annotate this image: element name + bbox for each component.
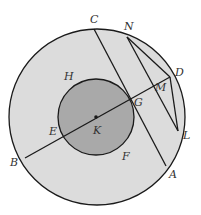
label-E: E <box>49 126 57 137</box>
label-N: N <box>124 21 134 32</box>
geometry-diagram: C N D M H G E K L B F A <box>0 0 201 215</box>
label-C: C <box>90 14 98 25</box>
label-L: L <box>183 130 190 141</box>
label-G: G <box>134 97 143 108</box>
label-A: A <box>169 169 177 180</box>
label-F: F <box>122 151 130 162</box>
center-point-K <box>94 115 98 119</box>
label-M: M <box>155 82 166 93</box>
label-H: H <box>64 71 74 82</box>
label-K: K <box>93 125 101 136</box>
label-D: D <box>175 67 184 78</box>
diagram-canvas <box>0 0 201 215</box>
label-B: B <box>10 157 18 168</box>
